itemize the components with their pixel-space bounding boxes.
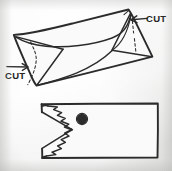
mouth-figure (42, 104, 158, 159)
mouth-upper-jaw-inner (42, 105, 48, 106)
cut-label-left: CUT (5, 70, 25, 81)
cut-annotation-right: CUT (131, 13, 167, 24)
cut-annotation-left: CUT (5, 64, 28, 81)
sketch-canvas: CUT CUT (0, 0, 172, 171)
cut-label-right: CUT (146, 13, 166, 24)
sketch-drawing: CUT CUT (0, 0, 172, 171)
